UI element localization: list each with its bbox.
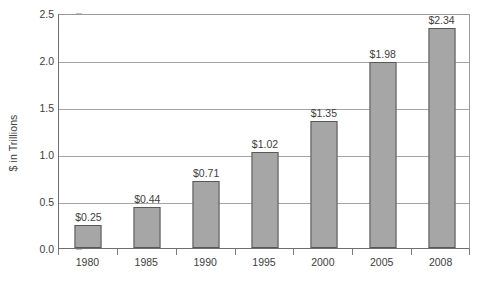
plot-area: $0.25$0.44$0.71$1.02$1.35$1.98$2.34 (58, 14, 470, 249)
bar-chart-figure: $ in Trillions 0.00.51.01.52.02.5 $0.25$… (0, 0, 488, 286)
x-axis-tick-label: 2008 (429, 256, 452, 268)
x-axis-tick-mark (235, 249, 236, 255)
bar-group[interactable]: $0.71 (177, 15, 236, 248)
bar-value-label: $0.44 (134, 193, 160, 205)
y-axis-tick-label: 2.0 (24, 55, 54, 67)
x-axis-tick-mark (469, 249, 470, 255)
y-axis-tick-label: 0.5 (24, 196, 54, 208)
x-axis-tick-label: 1985 (135, 256, 158, 268)
bar[interactable] (310, 121, 337, 248)
y-axis-tick-label: 1.0 (24, 149, 54, 161)
bar-group[interactable]: $1.35 (294, 15, 353, 248)
x-axis-tick-mark (411, 249, 412, 255)
y-axis-title: $ in Trillions (0, 0, 26, 286)
bar-group[interactable]: $0.44 (118, 15, 177, 248)
x-axis-tick-mark (293, 249, 294, 255)
y-axis-tick-label: 1.5 (24, 102, 54, 114)
y-axis-tick-label: 2.5 (24, 8, 54, 20)
bars-layer: $0.25$0.44$0.71$1.02$1.35$1.98$2.34 (59, 15, 469, 248)
bar-group[interactable]: $1.98 (353, 15, 412, 248)
bar-value-label: $0.71 (193, 167, 219, 179)
x-axis-tick-marks (58, 249, 470, 255)
bar-value-label: $0.25 (75, 211, 101, 223)
x-axis-tick-label: 2000 (311, 256, 334, 268)
bar[interactable] (428, 28, 455, 248)
bar-value-label: $2.34 (428, 14, 454, 26)
x-axis-tick-mark (352, 249, 353, 255)
bottom-caption (0, 279, 488, 286)
x-axis-tick-label: 1980 (76, 256, 99, 268)
x-axis-tick-mark (117, 249, 118, 255)
bar[interactable] (75, 225, 102, 249)
bar[interactable] (193, 181, 220, 248)
bar-group[interactable]: $1.02 (236, 15, 295, 248)
x-axis-tick-label: 1995 (252, 256, 275, 268)
x-axis-tick-label: 2005 (370, 256, 393, 268)
bar[interactable] (369, 62, 396, 248)
x-axis-tick-mark (176, 249, 177, 255)
bar-value-label: $1.35 (311, 107, 337, 119)
bar-group[interactable]: $2.34 (412, 15, 471, 248)
y-axis-tick-labels: 0.00.51.01.52.02.5 (24, 0, 54, 286)
x-axis-tick-mark (58, 249, 59, 255)
y-axis-tick-label: 0.0 (24, 243, 54, 255)
bar-value-label: $1.02 (252, 138, 278, 150)
bar[interactable] (134, 207, 161, 248)
bar-value-label: $1.98 (370, 48, 396, 60)
x-axis-tick-labels: 1980198519901995200020052008 (58, 256, 470, 272)
x-axis-tick-label: 1990 (193, 256, 216, 268)
bar-group[interactable]: $0.25 (59, 15, 118, 248)
bar[interactable] (251, 152, 278, 248)
